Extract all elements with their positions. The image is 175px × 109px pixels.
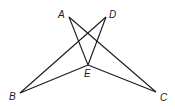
- segments: [20, 17, 156, 93]
- segment-db: [20, 17, 106, 93]
- label-c: C: [160, 92, 168, 103]
- segment-ec: [88, 65, 156, 92]
- label-e: E: [84, 68, 91, 79]
- point-labels: A D E B C: [9, 9, 168, 103]
- segment-ac: [69, 17, 156, 92]
- segment-de: [88, 17, 106, 65]
- segment-be: [20, 65, 88, 93]
- label-d: D: [109, 9, 116, 20]
- label-b: B: [9, 91, 16, 102]
- geometry-diagram: A D E B C: [0, 0, 175, 109]
- label-a: A: [57, 9, 65, 20]
